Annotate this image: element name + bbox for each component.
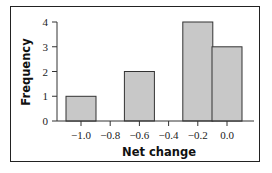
x-tick-label: −0.6 bbox=[129, 129, 149, 141]
x-tick-label: −0.2 bbox=[188, 129, 208, 141]
x-tick-label: 0.0 bbox=[220, 129, 234, 141]
y-ticks: 01234 bbox=[43, 16, 58, 127]
x-tick-label: −0.8 bbox=[100, 129, 120, 141]
x-tick-label: −0.4 bbox=[159, 129, 179, 141]
x-tick-label: −1.0 bbox=[71, 129, 91, 141]
bar--0.2 bbox=[183, 22, 213, 121]
histogram-chart: 01234 −1.0−0.8−0.6−0.4−0.20.0 Frequency … bbox=[0, 0, 272, 173]
bar--0.6 bbox=[124, 72, 154, 122]
y-tick-label: 2 bbox=[43, 66, 49, 78]
y-axis-title: Frequency bbox=[19, 38, 33, 106]
bar-0.0 bbox=[212, 47, 242, 121]
y-tick-label: 3 bbox=[43, 41, 49, 53]
x-axis-title: Net change bbox=[122, 145, 196, 159]
bar--1.0 bbox=[66, 96, 96, 121]
y-tick-label: 0 bbox=[43, 115, 49, 127]
x-ticks: −1.0−0.8−0.6−0.4−0.20.0 bbox=[71, 121, 234, 141]
bars-group bbox=[66, 22, 242, 121]
y-tick-label: 4 bbox=[43, 16, 49, 28]
y-tick-label: 1 bbox=[43, 90, 49, 102]
